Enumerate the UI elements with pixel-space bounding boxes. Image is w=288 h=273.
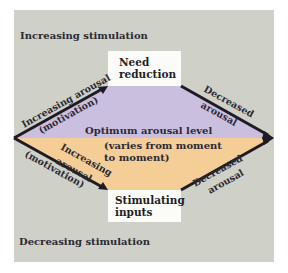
optimum-arousal-title: Optimum arousal level <box>85 126 212 136</box>
optimum-arousal-subtitle-line1: (varies from moment <box>104 141 222 151</box>
optimum-arousal-subtitle-line2: to moment) <box>104 153 170 163</box>
need-reduction-box: Need reduction <box>108 51 181 86</box>
stimulating-inputs-line1: Stimulating <box>115 195 185 206</box>
need-reduction-line1: Need <box>119 57 149 68</box>
stimulating-inputs-box: Stimulating inputs <box>108 190 181 222</box>
increasing-stimulation-label: Increasing stimulation <box>20 31 148 41</box>
arrowhead-icon <box>262 137 274 145</box>
decreasing-stimulation-label: Decreasing stimulation <box>19 237 150 247</box>
need-reduction-line2: reduction <box>119 69 176 80</box>
stimulating-inputs-line2: inputs <box>115 207 152 218</box>
